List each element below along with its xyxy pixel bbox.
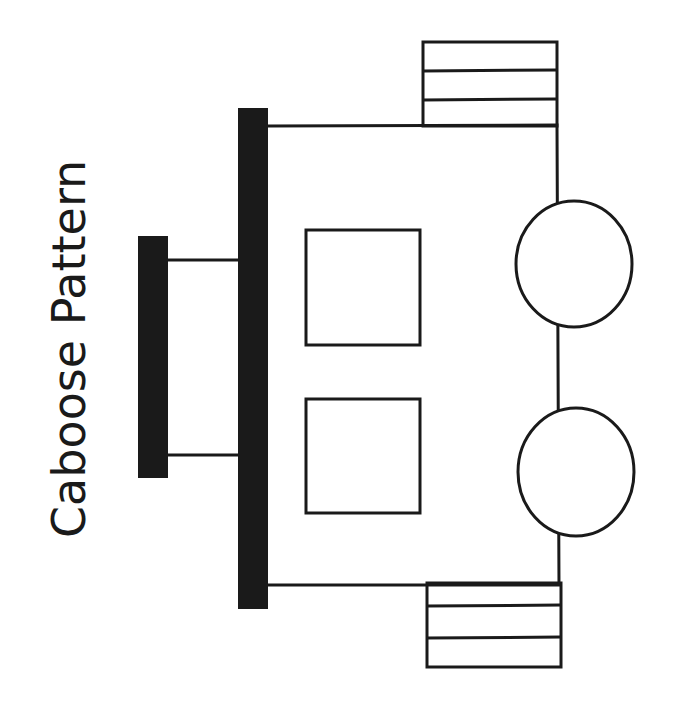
- ladder-top: [423, 42, 557, 126]
- window-1: [306, 230, 420, 345]
- caboose-body: [268, 125, 559, 585]
- main-roof: [238, 108, 268, 609]
- caboose-diagram: [0, 0, 673, 704]
- wheel-1: [516, 201, 632, 327]
- diagram-title: Caboose Pattern: [42, 160, 96, 538]
- wheel-2: [518, 408, 634, 536]
- cupola-roof: [138, 236, 168, 478]
- ladder-bottom: [427, 583, 561, 667]
- window-2: [306, 399, 420, 513]
